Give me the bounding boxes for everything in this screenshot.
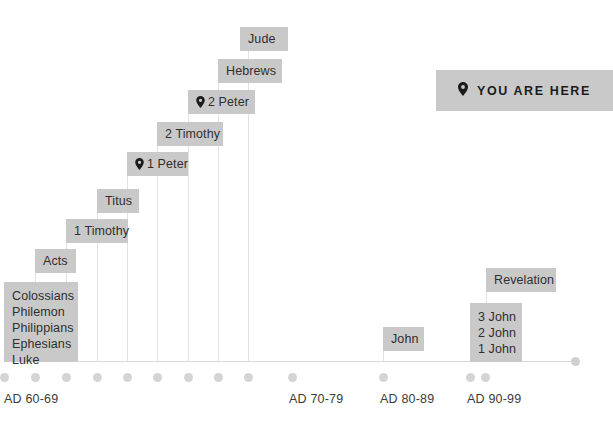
axis-tick-dot bbox=[214, 373, 223, 382]
axis-tick-dot bbox=[123, 373, 132, 382]
axis-tick-dot bbox=[62, 373, 71, 382]
book-label-1-timothy[interactable]: 1 Timothy bbox=[66, 219, 128, 243]
book-label-revelation[interactable]: Revelation bbox=[486, 268, 556, 292]
axis-tick-dot bbox=[0, 373, 9, 382]
connector-stem bbox=[157, 146, 158, 362]
book-label-text: Ephesians bbox=[12, 337, 71, 351]
axis-tick-dot bbox=[379, 373, 388, 382]
map-pin-icon bbox=[135, 158, 144, 174]
book-label-text: 1 John bbox=[478, 342, 516, 356]
axis-tick-label: AD 90-99 bbox=[467, 392, 521, 406]
book-label-john[interactable]: John bbox=[383, 327, 424, 351]
axis-tick-dot bbox=[184, 373, 193, 382]
book-label-titus[interactable]: Titus bbox=[97, 189, 139, 213]
connector-stem bbox=[188, 114, 189, 362]
book-label-text: Titus bbox=[105, 194, 132, 208]
book-label-hebrews[interactable]: Hebrews bbox=[218, 59, 282, 83]
book-label-acts[interactable]: Acts bbox=[35, 249, 76, 273]
book-label-jude[interactable]: Jude bbox=[240, 27, 288, 51]
connector-stem bbox=[383, 351, 384, 362]
axis-tick-label: AD 80-89 bbox=[380, 392, 434, 406]
book-label-text: 1 Peter bbox=[147, 157, 188, 171]
book-label-colossians-group[interactable]: ColossiansPhilemonPhilippiansEphesiansLu… bbox=[4, 282, 78, 362]
you-are-here-badge[interactable]: YOU ARE HERE bbox=[436, 70, 613, 111]
axis-tick-dot bbox=[288, 373, 297, 382]
book-label-text: John bbox=[391, 332, 419, 346]
axis-tick-label: AD 70-79 bbox=[289, 392, 343, 406]
book-label-2-timothy[interactable]: 2 Timothy bbox=[157, 122, 223, 146]
book-label-text: 2 John bbox=[478, 326, 516, 340]
book-label-text: Colossians bbox=[12, 289, 74, 303]
you-are-here-label: YOU ARE HERE bbox=[477, 84, 591, 98]
book-label-text: 2 Timothy bbox=[165, 127, 220, 141]
book-label-johannine-epistles[interactable]: 3 John2 John1 John bbox=[470, 303, 522, 362]
book-label-text: 1 Timothy bbox=[74, 224, 129, 238]
book-label-1-peter[interactable]: 1 Peter bbox=[127, 152, 188, 176]
axis-tick-label: AD 60-69 bbox=[4, 392, 58, 406]
book-label-text: Luke bbox=[12, 353, 40, 367]
book-label-2-peter[interactable]: 2 Peter bbox=[188, 90, 255, 114]
book-label-text: Philemon bbox=[12, 305, 65, 319]
axis-tick-dot bbox=[466, 373, 475, 382]
timeline-axis-end-dot bbox=[571, 357, 580, 366]
axis-tick-dot bbox=[481, 373, 490, 382]
axis-tick-dot bbox=[244, 373, 253, 382]
book-label-text: Acts bbox=[43, 254, 68, 268]
axis-tick-dot bbox=[93, 373, 102, 382]
book-label-text: Hebrews bbox=[226, 64, 276, 78]
book-label-text: 3 John bbox=[478, 310, 516, 324]
map-pin-icon bbox=[458, 82, 468, 99]
book-label-text: Jude bbox=[248, 32, 276, 46]
map-pin-icon bbox=[196, 96, 205, 112]
axis-tick-dot bbox=[31, 373, 40, 382]
book-label-text: Philippians bbox=[12, 321, 74, 335]
book-label-text: Revelation bbox=[494, 273, 554, 287]
axis-tick-dot bbox=[153, 373, 162, 382]
book-label-text: 2 Peter bbox=[208, 95, 249, 109]
